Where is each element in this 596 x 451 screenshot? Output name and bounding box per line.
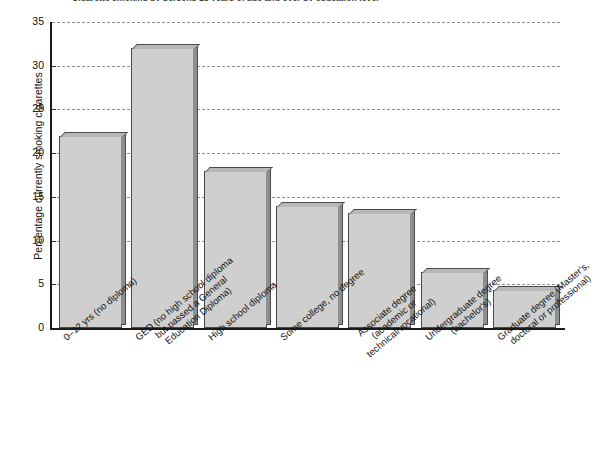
bar-top-face [205,167,273,172]
gridline [52,153,560,154]
gridline [52,109,560,110]
gridline [52,66,560,67]
bar-top-face [277,202,345,207]
y-axis-tick-mark [52,284,56,285]
y-axis-title: Percentage currently smoking cigarettes [32,36,44,296]
bar-top-face [422,268,490,273]
y-axis-tick-label: 15 [14,191,44,202]
y-axis-tick-label: 20 [14,147,44,158]
gridline [52,197,560,198]
y-axis-tick-label: 0 [14,322,44,333]
chart-title: Cigarette smoking by persons 25 years of… [72,0,502,1]
y-axis-tick-mark [52,241,56,242]
y-axis-tick-label: 25 [14,103,44,114]
y-axis-tick-mark [52,66,56,67]
y-axis-line [50,22,52,329]
y-axis-tick-mark [52,197,56,198]
bar [131,48,194,328]
y-axis-tick-label: 30 [14,60,44,71]
gridline [52,22,560,23]
x-axis-line [50,328,565,330]
bar-side-face [266,168,271,325]
y-axis-tick-mark [52,109,56,110]
y-axis-tick-mark [52,153,56,154]
bar-top-face [60,132,128,137]
bar-top-face [349,209,417,214]
y-axis-tick-label: 10 [14,235,44,246]
bar-side-face [338,203,343,325]
y-axis-tick-label: 35 [14,16,44,27]
bar-top-face [132,44,200,49]
y-axis-tick-label: 5 [14,278,44,289]
